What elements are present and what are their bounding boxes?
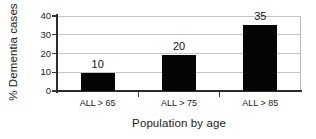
y-tick-label: 10 bbox=[29, 67, 51, 77]
bar-value-label: 35 bbox=[240, 10, 280, 22]
x-axis-title: Population by age bbox=[57, 117, 301, 129]
y-tick-label: 0 bbox=[29, 86, 51, 96]
bar bbox=[81, 73, 115, 91]
x-tick-mark bbox=[219, 92, 220, 97]
x-tick-mark bbox=[300, 92, 301, 97]
bar-value-label: 10 bbox=[78, 58, 118, 70]
y-axis-title: % Dementia cases bbox=[4, 2, 22, 102]
x-tick-label: ALL > 75 bbox=[139, 98, 219, 109]
x-tick-label: ALL > 85 bbox=[220, 98, 300, 109]
x-tick-label: ALL > 65 bbox=[58, 98, 138, 109]
bar-chart-figure: % Dementia cases 010203040 102035 ALL > … bbox=[0, 0, 316, 139]
bar-value-label: 20 bbox=[159, 40, 199, 52]
y-axis-line bbox=[56, 14, 58, 93]
y-tick-label: 40 bbox=[29, 11, 51, 21]
y-tick-label: 30 bbox=[29, 30, 51, 40]
bar bbox=[243, 25, 277, 91]
x-tick-mark bbox=[138, 92, 139, 97]
bar bbox=[162, 55, 196, 91]
y-tick-label: 20 bbox=[29, 49, 51, 59]
plot-frame-right bbox=[300, 16, 301, 92]
